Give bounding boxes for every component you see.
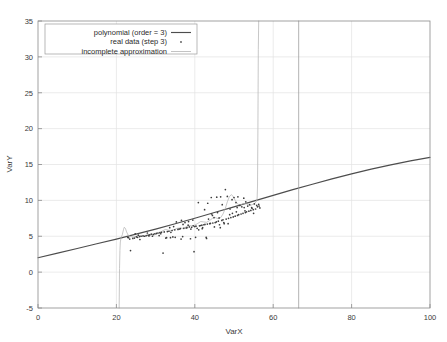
data-point bbox=[174, 229, 176, 231]
data-point bbox=[176, 221, 178, 223]
data-point bbox=[201, 228, 203, 230]
data-point bbox=[147, 232, 149, 234]
data-point bbox=[254, 203, 256, 205]
data-point bbox=[132, 238, 134, 240]
data-point bbox=[180, 238, 182, 240]
data-point bbox=[213, 217, 215, 219]
data-point bbox=[172, 236, 174, 238]
data-point bbox=[157, 232, 159, 234]
data-point bbox=[228, 217, 230, 219]
data-point bbox=[188, 221, 190, 223]
data-point bbox=[248, 210, 250, 212]
data-point bbox=[140, 235, 142, 237]
data-point bbox=[179, 228, 181, 230]
legend-label: real data (step 3) bbox=[110, 37, 167, 46]
data-point bbox=[181, 220, 183, 222]
data-point bbox=[156, 233, 158, 235]
data-point bbox=[145, 235, 147, 237]
data-point bbox=[127, 236, 129, 238]
data-point bbox=[148, 235, 150, 237]
data-point bbox=[170, 237, 172, 239]
data-point bbox=[204, 224, 206, 226]
data-point bbox=[239, 205, 241, 207]
data-point bbox=[166, 237, 168, 239]
data-point bbox=[138, 234, 140, 236]
chart-figure: 020406080100-505101520253035 VarX VarY p… bbox=[0, 0, 447, 342]
data-point bbox=[252, 209, 254, 211]
y-tick-label: 0 bbox=[29, 268, 33, 277]
data-point bbox=[134, 237, 136, 239]
data-point bbox=[220, 196, 222, 198]
data-point bbox=[208, 218, 210, 220]
data-point bbox=[243, 207, 245, 209]
data-point bbox=[210, 197, 212, 199]
data-point bbox=[231, 199, 233, 201]
data-point bbox=[238, 214, 240, 216]
x-tick-label: 0 bbox=[36, 313, 40, 322]
data-point bbox=[212, 222, 214, 224]
data-point bbox=[139, 239, 141, 241]
data-point bbox=[204, 209, 206, 211]
data-point bbox=[241, 206, 243, 208]
data-point bbox=[129, 238, 131, 240]
data-point bbox=[190, 238, 192, 240]
y-tick-label: 5 bbox=[29, 232, 33, 241]
data-point bbox=[221, 204, 223, 206]
data-point bbox=[232, 216, 234, 218]
data-point bbox=[188, 226, 190, 228]
data-point bbox=[258, 203, 260, 205]
x-tick-label: 40 bbox=[191, 313, 199, 322]
data-point bbox=[207, 202, 209, 204]
data-point bbox=[245, 201, 247, 203]
data-point bbox=[170, 231, 172, 233]
data-point bbox=[197, 202, 199, 204]
data-point bbox=[201, 224, 203, 226]
data-point bbox=[190, 228, 192, 230]
data-point bbox=[244, 210, 246, 212]
data-point bbox=[240, 213, 242, 215]
data-point bbox=[216, 196, 218, 198]
data-point bbox=[182, 224, 184, 226]
data-point bbox=[163, 231, 165, 233]
data-point bbox=[214, 226, 216, 228]
data-point bbox=[174, 236, 176, 238]
y-axis-title: VarY bbox=[5, 155, 14, 173]
data-point bbox=[158, 235, 160, 237]
data-point bbox=[219, 227, 221, 229]
data-point bbox=[167, 231, 169, 233]
data-point bbox=[236, 207, 238, 209]
data-point bbox=[162, 252, 164, 254]
data-point bbox=[225, 189, 227, 191]
data-point bbox=[232, 212, 234, 214]
legend-marker-dot bbox=[180, 41, 182, 43]
data-point bbox=[150, 233, 152, 235]
data-point bbox=[192, 219, 194, 221]
data-point bbox=[219, 224, 221, 226]
data-point bbox=[225, 218, 227, 220]
data-point bbox=[142, 235, 144, 237]
data-point bbox=[251, 207, 253, 209]
data-point bbox=[246, 211, 248, 213]
data-point bbox=[183, 228, 185, 230]
data-point bbox=[195, 225, 197, 227]
data-point bbox=[233, 197, 235, 199]
x-tick-label: 100 bbox=[424, 313, 437, 322]
data-point bbox=[152, 234, 154, 236]
data-point bbox=[173, 226, 175, 228]
legend-label: incomplete approximation bbox=[82, 47, 167, 56]
plot-svg: 020406080100-505101520253035 VarX VarY p… bbox=[0, 0, 447, 342]
data-point bbox=[216, 221, 218, 223]
y-tick-label: 15 bbox=[25, 160, 33, 169]
data-point bbox=[210, 222, 212, 224]
data-point bbox=[171, 230, 173, 232]
y-tick-label: 30 bbox=[25, 53, 33, 62]
data-point bbox=[134, 233, 136, 235]
data-point bbox=[247, 205, 249, 207]
x-tick-label: 80 bbox=[347, 313, 355, 322]
data-point bbox=[152, 235, 154, 237]
data-point bbox=[253, 212, 255, 214]
y-tick-label: 20 bbox=[25, 124, 33, 133]
data-point bbox=[195, 236, 197, 238]
data-point bbox=[160, 233, 162, 235]
data-point bbox=[250, 210, 252, 212]
